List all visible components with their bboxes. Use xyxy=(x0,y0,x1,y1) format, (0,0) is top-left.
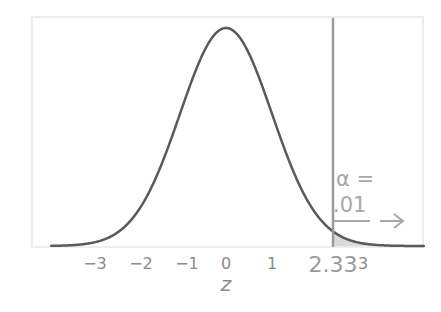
critical-tick-label: 2.33 xyxy=(309,252,358,277)
tick-label: 3 xyxy=(358,254,368,273)
tick-label: 1 xyxy=(267,254,277,273)
alpha-value: .01 xyxy=(333,193,366,217)
x-axis-label: z xyxy=(220,272,232,296)
alpha-label: α = xyxy=(336,167,374,191)
tick-label: −1 xyxy=(175,254,199,273)
tick-label: −3 xyxy=(83,254,107,273)
tick-label: −2 xyxy=(129,254,153,273)
normal-curve xyxy=(51,28,424,246)
normal-distribution-chart: α = .01 −3 −2 −1 0 1 2.33 3 z xyxy=(0,0,441,312)
tick-label: 0 xyxy=(221,254,231,273)
